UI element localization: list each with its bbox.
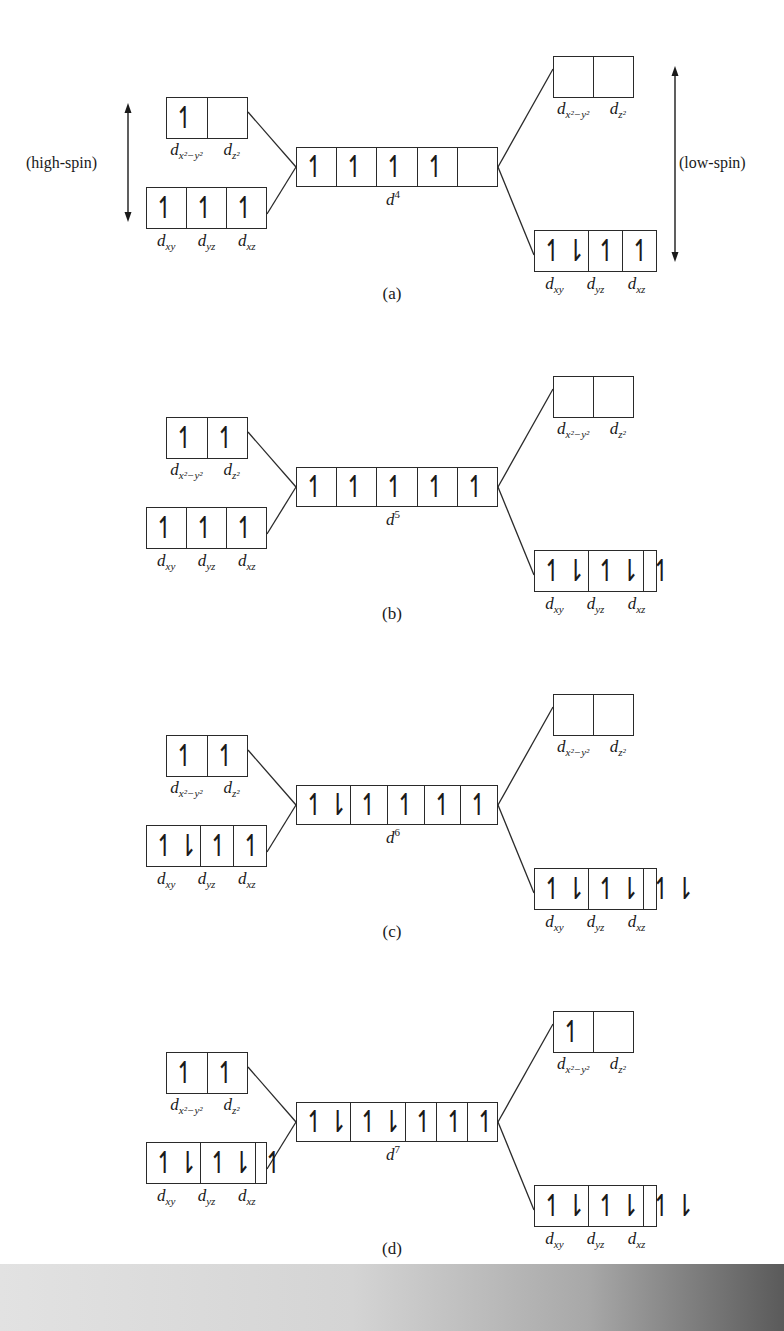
panel-b: ↿↿dx²−y²dz²↿↿↿dxydyzdxz↿↿↿↿↿d5dx²−y²dz²↿… (0, 320, 784, 650)
orbital-cell: ↿⇂ (535, 1186, 589, 1226)
panel-caption: (c) (362, 922, 422, 942)
high-spin-t2g-orbitals: ↿↿↿ (146, 187, 267, 229)
spin-up-arrow-icon: ↿ (195, 193, 215, 223)
spin-down-arrow-icon: ⇂ (328, 1107, 348, 1137)
low-spin-eg-labels: dx²−y²dz² (551, 1054, 640, 1075)
orbital-label-dx2-y2: dx²−y² (551, 737, 596, 758)
high-spin-eg-labels: dx²−y²dz² (164, 778, 254, 799)
high-spin-t2g-orbitals: ↿⇂↿↿ (146, 825, 267, 867)
spin-up-arrow-icon: ↿ (155, 831, 175, 861)
orbital-cell: ↿⇂ (147, 826, 201, 866)
spin-up-arrow-icon: ↿ (385, 472, 405, 502)
orbital-cell: ↿ (167, 736, 208, 776)
spin-up-arrow-icon: ↿ (305, 1107, 325, 1137)
low-spin-eg-labels: dx²−y²dz² (551, 737, 640, 758)
orbital-label-dxz: dxz (616, 912, 657, 933)
orbital-cell: ↿ (227, 188, 266, 228)
orbital-cell: ↿ (147, 188, 187, 228)
orbital-cell: ↿ (167, 1053, 208, 1093)
orbital-cell: ↿⇂ (535, 869, 589, 909)
spin-up-arrow-icon: ↿ (385, 152, 405, 182)
orbital-cell (594, 1012, 633, 1052)
spin-up-arrow-icon: ↿ (597, 556, 617, 586)
orbital-label-dz2: dz² (596, 1054, 641, 1075)
orbital-label-dxz: dxz (227, 551, 267, 572)
orbital-cell: ↿ (208, 418, 248, 458)
panel-caption: (d) (362, 1239, 422, 1259)
spin-down-arrow-icon: ⇂ (328, 790, 348, 820)
orbital-label-dz2: dz² (596, 737, 641, 758)
orbital-cell: ↿⇂ (589, 869, 643, 909)
orbital-cell: ↿ (297, 468, 337, 506)
spin-up-arrow-icon: ↿ (263, 1148, 283, 1178)
low-spin-label: (low-spin) (679, 154, 746, 172)
orbital-label-dxz: dxz (616, 274, 657, 295)
spin-up-arrow-icon: ↿ (651, 1191, 671, 1221)
orbital-label-dx2-y2: dx²−y² (164, 1095, 209, 1116)
spin-up-arrow-icon: ↿ (543, 874, 563, 904)
orbital-label-dyz: dyz (186, 1186, 226, 1207)
spin-up-arrow-icon: ↿ (597, 1191, 617, 1221)
spin-up-arrow-icon: ↿ (597, 874, 617, 904)
electron-configuration-label: d4 (386, 188, 400, 210)
orbital-label-dz2: dz² (209, 460, 254, 481)
spin-down-arrow-icon: ⇂ (566, 1191, 586, 1221)
high-spin-t2g-labels: dxydyzdxz (146, 551, 267, 572)
spin-up-arrow-icon: ↿ (215, 423, 235, 453)
orbital-cell: ↿ (256, 1143, 286, 1183)
orbital-label-dxy: dxy (146, 869, 186, 890)
spin-down-arrow-icon: ⇂ (566, 556, 586, 586)
orbital-label-dxy: dxy (146, 1186, 186, 1207)
orbital-label-dxz: dxz (227, 231, 267, 252)
orbital-label-dz2: dz² (209, 778, 254, 799)
orbital-cell: ↿⇂ (589, 551, 643, 591)
spin-up-arrow-icon: ↿ (215, 741, 235, 771)
orbital-label-dxy: dxy (146, 231, 186, 252)
orbital-label-dxy: dxy (534, 274, 575, 295)
low-spin-t2g-labels: dxydyzdxz (534, 594, 657, 615)
orbital-cell: ↿ (297, 148, 337, 186)
low-spin-eg-labels: dx²−y²dz² (551, 419, 640, 440)
spin-up-arrow-icon: ↿ (395, 790, 415, 820)
orbital-cell: ↿ (468, 1103, 498, 1141)
spin-down-arrow-icon: ⇂ (178, 831, 198, 861)
orbital-label-dxz: dxz (227, 1186, 267, 1207)
spin-up-arrow-icon: ↿ (305, 152, 325, 182)
spin-up-arrow-icon: ↿ (155, 193, 175, 223)
orbital-cell: ↿ (337, 148, 377, 186)
spin-up-arrow-icon: ↿ (209, 1148, 229, 1178)
spin-up-arrow-icon: ↿ (359, 790, 379, 820)
panel-c: ↿↿dx²−y²dz²↿⇂↿↿dxydyzdxz↿⇂↿↿↿↿d6dx²−y²dz… (0, 638, 784, 968)
spin-up-arrow-icon: ↿ (359, 1107, 379, 1137)
orbital-label-dz2: dz² (596, 99, 641, 120)
orbital-cell (594, 695, 633, 735)
orbital-label-dyz: dyz (575, 1229, 616, 1250)
spin-down-arrow-icon: ⇂ (620, 874, 640, 904)
orbital-cell: ↿ (208, 736, 248, 776)
orbital-cell (208, 98, 248, 138)
orbital-cell: ↿ (337, 468, 377, 506)
electron-configuration-label: d5 (386, 508, 400, 530)
orbital-cell: ↿ (377, 148, 417, 186)
spin-up-arrow-icon: ↿ (469, 790, 489, 820)
orbital-cell: ↿ (437, 1103, 468, 1141)
orbital-cell: ↿ (351, 786, 388, 824)
free-ion-d-orbitals: ↿⇂↿↿↿↿ (296, 785, 498, 825)
spin-up-arrow-icon: ↿ (413, 1107, 433, 1137)
orbital-label-dxy: dxy (534, 594, 575, 615)
high-spin-t2g-labels: dxydyzdxz (146, 1186, 267, 1207)
orbital-cell: ↿ (377, 468, 417, 506)
orbital-label-dyz: dyz (575, 274, 616, 295)
orbital-label-dx2-y2: dx²−y² (551, 419, 596, 440)
low-spin-t2g-orbitals: ↿⇂↿⇂↿⇂ (534, 868, 657, 910)
orbital-cell: ↿⇂ (535, 231, 589, 271)
orbital-cell: ↿ (147, 508, 187, 548)
low-spin-eg-orbitals (553, 376, 634, 418)
orbital-cell: ↿ (167, 418, 208, 458)
panel-caption: (a) (362, 284, 422, 304)
spin-up-arrow-icon: ↿ (425, 152, 445, 182)
orbital-cell: ↿ (167, 98, 208, 138)
spin-down-arrow-icon: ⇂ (178, 1148, 198, 1178)
spin-up-arrow-icon: ↿ (543, 1191, 563, 1221)
spin-down-arrow-icon: ⇂ (620, 556, 640, 586)
